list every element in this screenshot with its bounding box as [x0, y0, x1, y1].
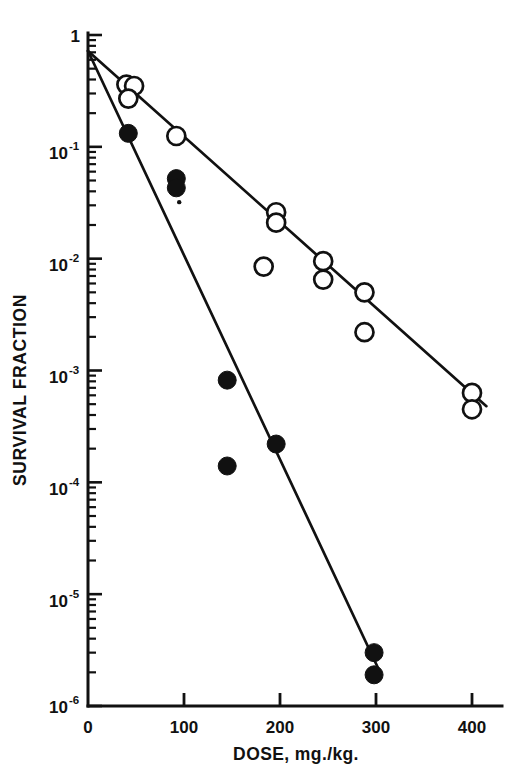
y-tick-mantissa: 10 — [49, 592, 68, 611]
data-point-open-circle — [255, 258, 273, 276]
data-point-open-circle — [119, 90, 137, 108]
chart-figure: SURVIVAL FRACTION 1 10 -1 10 -2 10 -3 10… — [0, 0, 514, 776]
fit-line-open-circles — [88, 51, 486, 406]
data-point-filled-circle — [365, 644, 383, 662]
y-tick-label-2: 10 -2 — [49, 252, 79, 275]
y-tick-mantissa: 10 — [49, 256, 68, 275]
data-point-small-dot — [177, 200, 181, 204]
y-axis-ticks — [88, 35, 102, 706]
y-axis-label: SURVIVAL FRACTION — [10, 294, 30, 486]
data-point-filled-circle — [218, 457, 236, 475]
y-tick-mantissa: 10 — [49, 698, 68, 717]
y-axis-label-group: SURVIVAL FRACTION — [10, 294, 30, 486]
data-point-filled-circle — [218, 371, 236, 389]
x-tick-label: 100 — [170, 718, 198, 737]
y-tick-mantissa: 10 — [49, 368, 68, 387]
x-tick-label: 0 — [83, 718, 92, 737]
data-point-filled-circle — [267, 435, 285, 453]
y-tick-labels: 1 10 -1 10 -2 10 -3 10 -4 10 -5 — [49, 27, 80, 717]
y-tick-exponent: -3 — [69, 364, 79, 376]
data-point-open-circle — [167, 127, 185, 145]
data-point-open-circle — [355, 283, 373, 301]
y-tick-label-3: 10 -3 — [49, 364, 79, 387]
survival-fraction-semilog-plot: SURVIVAL FRACTION 1 10 -1 10 -2 10 -3 10… — [0, 0, 514, 776]
data-point-open-circle — [463, 400, 481, 418]
y-tick-mantissa: 10 — [49, 144, 68, 163]
y-tick-label-6: 10 -6 — [49, 694, 79, 717]
data-point-filled-circle — [365, 666, 383, 684]
x-tick-label: 400 — [458, 718, 486, 737]
data-point-open-circle — [267, 214, 285, 232]
data-point-open-circle — [314, 252, 332, 270]
x-axis-label: DOSE, mg./kg. — [233, 744, 359, 764]
y-tick-mantissa: 10 — [49, 480, 68, 499]
data-point-filled-circle — [167, 179, 185, 197]
x-tick-labels: 0100200300400 — [83, 718, 486, 737]
fit-line-filled-circles — [88, 51, 378, 668]
data-point-open-circle — [314, 271, 332, 289]
data-points-group — [117, 76, 481, 684]
y-tick-label-0: 1 — [71, 27, 80, 46]
x-tick-label: 300 — [362, 718, 390, 737]
y-tick-exponent: -4 — [69, 476, 80, 488]
y-tick-mantissa: 1 — [71, 27, 80, 46]
x-axis-ticks — [184, 693, 472, 706]
x-tick-label: 200 — [266, 718, 294, 737]
y-tick-label-4: 10 -4 — [49, 476, 80, 499]
y-tick-exponent: -1 — [69, 140, 80, 152]
y-tick-label-5: 10 -5 — [49, 588, 80, 611]
series-filled-circles — [119, 124, 383, 683]
fit-lines-group — [88, 51, 486, 668]
data-point-open-circle — [355, 323, 373, 341]
series-open-circles — [117, 76, 481, 419]
y-tick-label-1: 10 -1 — [49, 140, 80, 163]
data-point-filled-circle — [119, 124, 137, 142]
y-tick-exponent: -2 — [69, 252, 79, 264]
y-tick-exponent: -5 — [69, 588, 80, 600]
y-tick-exponent: -6 — [69, 694, 79, 706]
